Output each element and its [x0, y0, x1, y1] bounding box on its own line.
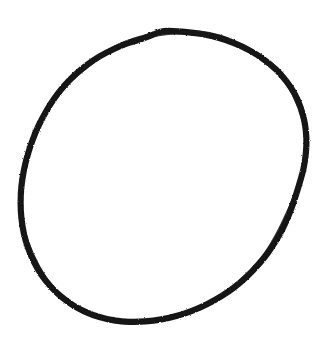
- sketch-surface: [0, 0, 335, 355]
- drawing-canvas: [0, 0, 335, 355]
- canvas-background: [0, 0, 335, 355]
